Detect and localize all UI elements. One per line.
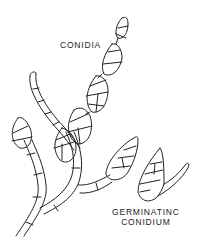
main-hypha bbox=[16, 140, 46, 236]
germinating-label-line2: CONIDIUM bbox=[112, 217, 180, 227]
conidia-label: CONIDIA bbox=[60, 40, 101, 50]
germinating-label-line1: GERMINATINC bbox=[112, 207, 180, 217]
conidium-right bbox=[106, 137, 138, 180]
conidium-left bbox=[12, 117, 32, 148]
conidium-mid bbox=[54, 128, 76, 162]
conidia-chain bbox=[68, 17, 128, 144]
upper-hypha bbox=[30, 72, 80, 150]
germinating-conidium-label: GERMINATINC CONIDIUM bbox=[112, 207, 180, 227]
conidia-diagram: CONIDIA GERMINATINC CONIDIUM bbox=[0, 0, 205, 248]
germinating-conidium bbox=[138, 148, 189, 201]
